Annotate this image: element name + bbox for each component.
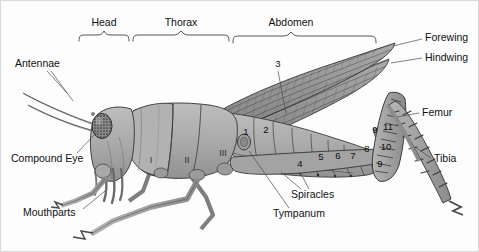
tympanum-inner	[241, 137, 248, 146]
label-antennae: Antennae	[15, 57, 60, 69]
compound-eye	[92, 114, 112, 139]
label-tympanum: Tympanum	[273, 207, 325, 219]
thorax-numeral-3: III	[219, 148, 227, 158]
grasshopper-anatomy-figure: Head Thorax Abdomen	[1, 1, 479, 252]
ocellus	[91, 112, 94, 115]
region-label-head: Head	[91, 16, 116, 28]
region-label-abdomen: Abdomen	[269, 16, 314, 28]
abdomen-number-3: 3	[275, 58, 280, 69]
label-hindwing: Hindwing	[425, 51, 468, 63]
label-spiracles: Spiracles	[291, 188, 334, 200]
abdomen-number-7: 7	[350, 150, 355, 161]
abdomen-number-2: 2	[263, 124, 268, 135]
abdomen-number-9-upper: 9	[372, 124, 377, 135]
thorax-numeral-2: II	[184, 155, 189, 165]
thorax-numeral-1: I	[150, 155, 153, 165]
compound-eye-highlight	[96, 117, 102, 125]
label-mouthparts: Mouthparts	[23, 206, 76, 218]
abdomen-number-8: 8	[364, 143, 369, 154]
front-coxa	[154, 168, 168, 178]
abdomen-number-9-lower: 9	[377, 158, 382, 169]
abdomen-number-11: 11	[383, 121, 393, 132]
abdomen-number-5: 5	[318, 151, 323, 162]
abdomen-number-4: 4	[297, 158, 302, 169]
region-label-thorax: Thorax	[165, 16, 198, 28]
diagram-root: Head Thorax Abdomen	[0, 0, 479, 252]
label-compound-eye: Compound Eye	[11, 152, 84, 164]
abdomen-number-1: 1	[243, 126, 248, 137]
label-femur: Femur	[422, 106, 453, 118]
label-tibia: Tibia	[434, 152, 457, 164]
labrum	[95, 164, 111, 178]
abdomen-number-10: 10	[381, 141, 392, 152]
thorax-group	[130, 103, 238, 181]
label-forewing: Forewing	[425, 31, 468, 43]
abdomen-number-6: 6	[335, 150, 340, 161]
